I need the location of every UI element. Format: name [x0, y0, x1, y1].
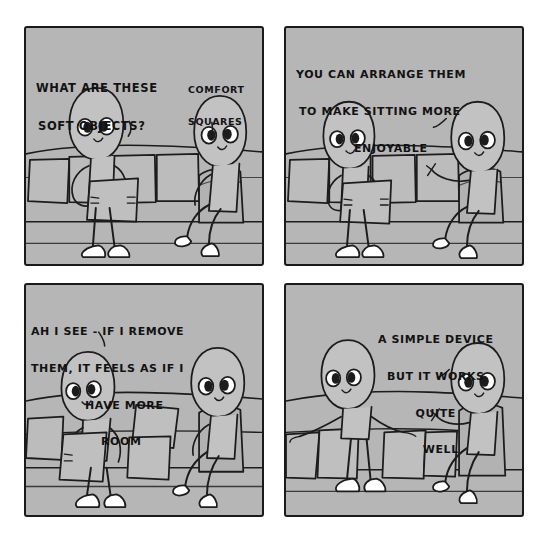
comic-strip: WHAT ARE THESE SOFT OBJECTS? COMFORT SQU…: [0, 0, 547, 550]
comic-panel-2: [284, 26, 524, 266]
comic-panel-4: [284, 283, 524, 517]
comic-panel-1: [24, 26, 264, 266]
comic-panel-3: [24, 283, 264, 517]
